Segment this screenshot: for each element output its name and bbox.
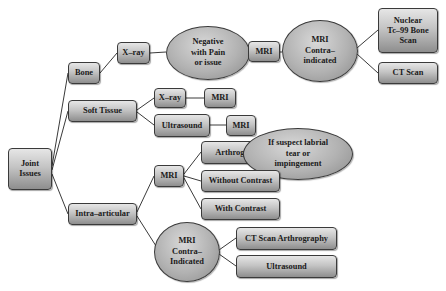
node-intra-mri: MRI bbox=[154, 165, 184, 187]
diagram-canvas: Joint Issues Bone X–ray Negative with Pa… bbox=[0, 0, 446, 291]
node-bone-xray: X–ray bbox=[117, 42, 150, 64]
node-label-line: or issue bbox=[194, 58, 221, 69]
node-label-line: Joint bbox=[21, 159, 39, 169]
node-label: CT Scan bbox=[393, 68, 424, 78]
node-nuclear-bone-scan: Nuclear Tc–99 Bone Scan bbox=[378, 8, 438, 53]
node-label: Soft Tissue bbox=[83, 106, 122, 116]
node-soft-tissue: Soft Tissue bbox=[68, 100, 137, 122]
edge-mri-with bbox=[184, 178, 201, 209]
node-label: X–ray bbox=[159, 93, 181, 103]
edge-contra-ctscan bbox=[357, 54, 378, 73]
node-ct-scan: CT Scan bbox=[378, 62, 438, 84]
node-bone: Bone bbox=[68, 62, 100, 84]
edge-contra-nuclear bbox=[357, 30, 378, 48]
node-with-contrast: With Contrast bbox=[201, 198, 280, 220]
edge-xray-negative bbox=[150, 52, 166, 53]
node-ultrasound-mri: MRI bbox=[226, 115, 256, 136]
node-negative-with-pain: Negative with Pain or issue bbox=[166, 26, 250, 80]
node-without-contrast: Without Contrast bbox=[201, 170, 280, 192]
node-label-line: Indicated bbox=[170, 257, 204, 268]
edge-contra-ctarthro bbox=[219, 238, 236, 250]
edge-intra-contra bbox=[137, 216, 156, 246]
node-label-line: Scan bbox=[399, 36, 416, 46]
node-label-line: Contra– bbox=[305, 46, 335, 57]
node-label: Bone bbox=[75, 68, 93, 78]
node-label-line: Negative bbox=[192, 37, 223, 48]
edge-soft-xray bbox=[137, 98, 154, 110]
edge-joint-intra bbox=[52, 174, 68, 214]
node-soft-xray: X–ray bbox=[154, 88, 186, 108]
node-label-line: If suspect labrial bbox=[268, 138, 328, 149]
node-label-line: MRI bbox=[178, 236, 195, 247]
edge-mri-without bbox=[184, 176, 201, 181]
edge-mri-arthrography bbox=[184, 152, 201, 174]
node-ultrasound: Ultrasound bbox=[154, 114, 210, 137]
node-label-line: Tc–99 Bone bbox=[387, 26, 428, 36]
node-joint-issues: Joint Issues bbox=[8, 148, 52, 190]
node-label: MRI bbox=[232, 121, 249, 131]
node-intra-articular: Intra–articular bbox=[68, 203, 137, 225]
node-mri-contraindicated-bottom: MRI Contra– Indicated bbox=[154, 222, 220, 282]
node-label-line: with Pain bbox=[191, 48, 225, 59]
node-label-line: indicated bbox=[303, 56, 336, 67]
node-label-line: MRI bbox=[311, 35, 328, 46]
node-label: Ultrasound bbox=[162, 121, 203, 131]
node-label-line: Issues bbox=[19, 169, 40, 179]
node-label: MRI bbox=[211, 93, 228, 103]
node-soft-xray-mri: MRI bbox=[204, 88, 236, 108]
node-label: Without Contrast bbox=[209, 176, 272, 186]
node-label-line: Nuclear bbox=[394, 16, 422, 26]
node-ct-scan-arthrography: CT Scan Arthrography bbox=[236, 227, 337, 250]
edge-bone-xray bbox=[100, 53, 117, 73]
node-label: Ultrasound bbox=[266, 262, 307, 272]
edge-contra-ultrasound bbox=[219, 254, 236, 266]
node-bone-mri: MRI bbox=[248, 41, 280, 62]
node-label-line: impingement bbox=[275, 159, 322, 170]
edge-soft-ultrasound bbox=[137, 112, 154, 125]
node-ultrasound-bottom: Ultrasound bbox=[236, 255, 337, 278]
node-label: Intra–articular bbox=[75, 209, 129, 219]
node-label: X–ray bbox=[122, 48, 144, 58]
node-label: MRI bbox=[160, 171, 177, 181]
node-mri-contraindicated-top: MRI Contra– indicated bbox=[282, 20, 358, 82]
edge-intra-mri bbox=[137, 176, 154, 212]
node-label: CT Scan Arthrography bbox=[245, 234, 328, 244]
node-label: MRI bbox=[255, 47, 272, 57]
node-label-line: tear or bbox=[286, 149, 310, 160]
node-label: With Contrast bbox=[215, 204, 267, 214]
node-label-line: Contra– bbox=[172, 247, 202, 258]
